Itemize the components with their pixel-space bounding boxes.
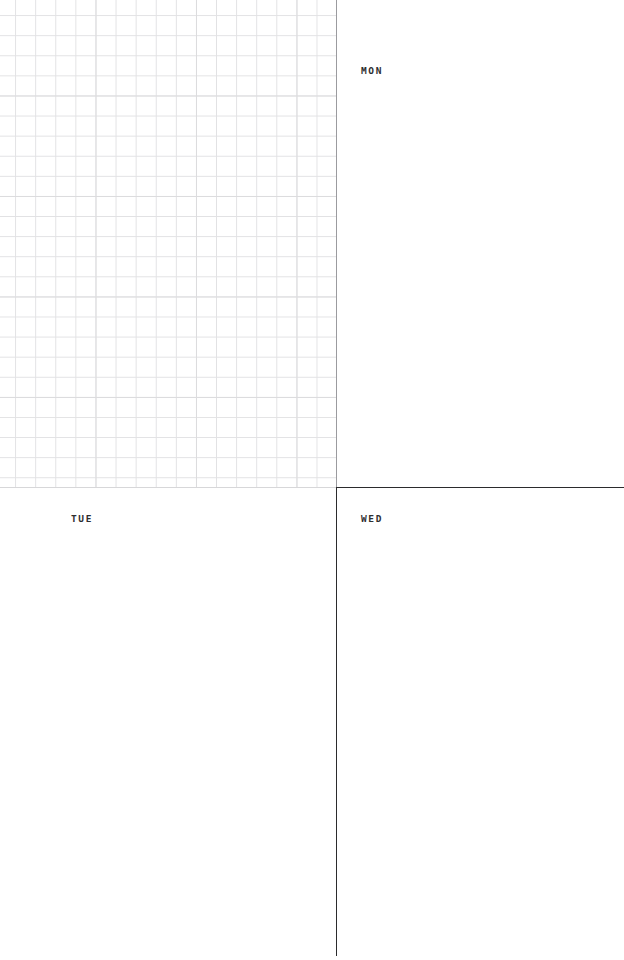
divider-vertical-light	[336, 0, 337, 488]
day-label-wednesday: WED	[361, 514, 383, 524]
graph-paper-grid	[0, 0, 336, 487]
divider-vertical	[336, 487, 337, 956]
planner-page: MON TUE WED	[0, 0, 624, 960]
divider-horizontal	[336, 487, 624, 488]
quadrant-wednesday[interactable]	[337, 489, 624, 960]
day-label-monday: MON	[361, 66, 383, 76]
quadrant-tuesday[interactable]	[0, 489, 336, 960]
quadrant-top-left[interactable]	[0, 0, 336, 487]
divider-horizontal-light	[0, 487, 337, 488]
day-label-tuesday: TUE	[71, 514, 93, 524]
